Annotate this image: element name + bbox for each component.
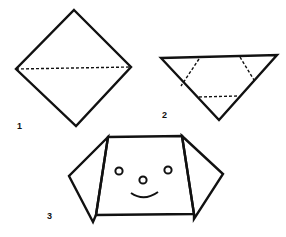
step-1-label: 1	[17, 121, 22, 131]
step-2-fold-line-right	[240, 57, 254, 80]
step-1: 1	[16, 10, 131, 131]
step-2-label: 2	[162, 110, 167, 120]
step-3-label: 3	[47, 211, 52, 221]
dog-face	[96, 136, 194, 215]
step-3: 3	[47, 136, 223, 222]
step-1-fold-line	[16, 67, 131, 69]
dog-nose	[139, 176, 146, 183]
step-2-fold-line-left	[181, 59, 199, 86]
dog-right-eye	[164, 166, 171, 173]
dog-mouth	[131, 192, 158, 197]
step-2: 2	[161, 55, 277, 120]
dog-left-eye	[115, 167, 122, 174]
step-2-triangle	[161, 55, 277, 120]
origami-diagram: 1 2 3	[0, 0, 286, 237]
step-2-fold-line-bottom	[199, 96, 238, 97]
